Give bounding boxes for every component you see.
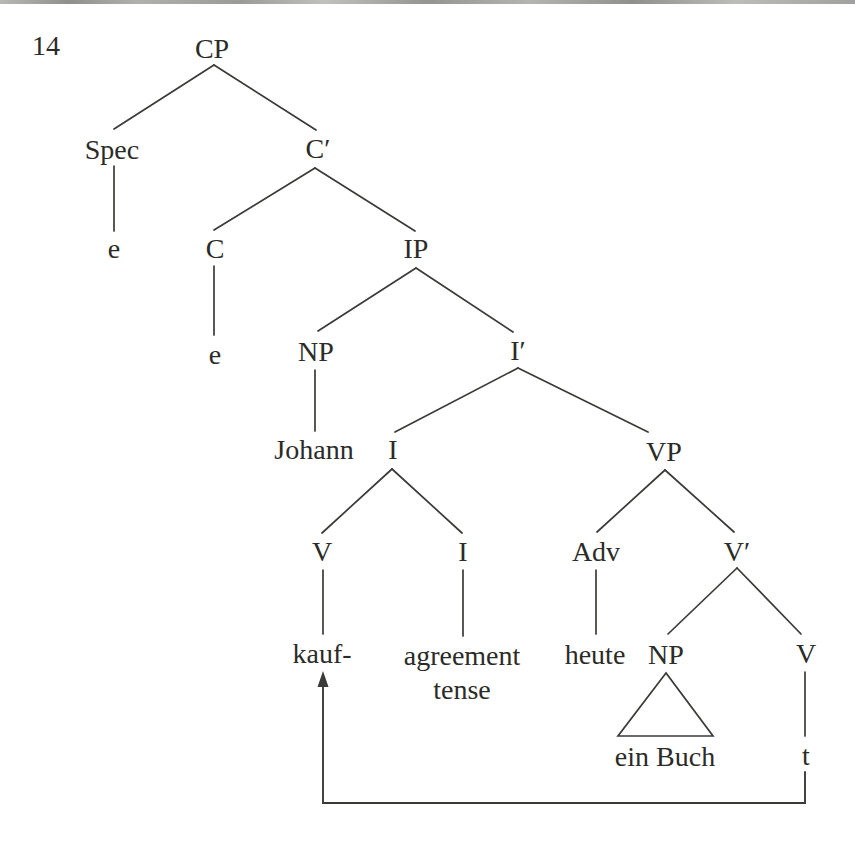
edge-cbar-ip <box>315 168 415 231</box>
edge-vbar-np <box>668 568 737 634</box>
node-spec: Spec <box>85 133 139 167</box>
tree-edges <box>0 0 855 846</box>
node-agreement-tense: agreement tense <box>404 639 521 707</box>
node-v-head: V <box>312 535 332 569</box>
edge-cp-spec <box>114 65 214 129</box>
edge-ip-ibar <box>416 268 513 332</box>
edge-vp-adv <box>597 470 665 532</box>
node-ein-buch: ein Buch <box>615 740 715 774</box>
edge-cp-cbar <box>214 65 316 130</box>
edge-cbar-c <box>214 168 315 230</box>
node-np-subject: NP <box>298 335 334 369</box>
node-c-trace: e <box>209 338 221 372</box>
node-kauf: kauf- <box>292 637 351 671</box>
node-johann: Johann <box>274 433 353 467</box>
edge-ip-np <box>318 268 416 331</box>
node-heute: heute <box>565 638 626 672</box>
node-np-object: NP <box>648 638 684 672</box>
edge-i-v <box>322 469 392 533</box>
movement-arrowhead <box>318 671 329 687</box>
node-i: I <box>388 433 397 467</box>
movement-arrow-path <box>323 685 805 803</box>
node-cp: CP <box>195 32 229 66</box>
node-spec-trace: e <box>108 232 120 266</box>
node-v-trace-head: V <box>796 637 816 671</box>
edge-vbar-v <box>737 568 801 634</box>
node-i-bar: I′ <box>510 334 525 368</box>
edge-ibar-i <box>395 368 518 432</box>
node-c-bar: C′ <box>306 132 331 166</box>
edge-ibar-vp <box>518 368 648 432</box>
node-trace: t <box>802 739 810 773</box>
node-adv: Adv <box>572 535 620 569</box>
node-vp: VP <box>646 435 682 469</box>
book-page: 14 <box>0 0 855 846</box>
node-ip: IP <box>404 232 429 266</box>
np-triangle <box>618 673 713 736</box>
edge-vp-vbar <box>665 470 734 532</box>
node-i-lower: I <box>458 535 467 569</box>
syntax-tree-diagram: CP Spec e C′ C e IP NP I′ Johann I VP V … <box>0 0 855 846</box>
node-v-bar: V′ <box>724 535 750 569</box>
edge-i-ilower <box>392 469 462 533</box>
node-c: C <box>206 232 225 266</box>
